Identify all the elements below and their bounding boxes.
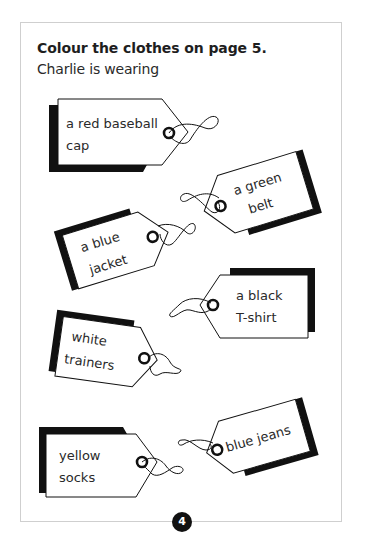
tag-label-line1: a red baseball	[66, 116, 158, 131]
tag-white-trainers: white trainers	[48, 310, 162, 390]
tag-label-line2: cap	[66, 138, 89, 153]
tag-blue-jacket: a blue jacket	[54, 200, 176, 291]
tag-label-line1: a black	[236, 288, 283, 303]
tag-label-line1: yellow	[59, 448, 101, 463]
page-number-badge: 4	[172, 512, 192, 532]
tag-black-tshirt: a black T-shirt	[170, 268, 315, 338]
tag-hole-icon	[211, 444, 223, 456]
tag-yellow-socks: yellow socks	[39, 427, 183, 497]
tag-label-line2: socks	[59, 470, 95, 485]
tag-green-belt: a green belt	[195, 150, 321, 246]
tag-label-line2: T-shirt	[235, 310, 277, 325]
tag-hole-icon	[139, 353, 150, 364]
tag-hole-icon	[146, 231, 158, 243]
clothes-tags-illustration: a red baseball cap a green belt a blue j…	[0, 0, 366, 548]
tag-hole-icon	[208, 300, 218, 310]
tag-hole-icon	[214, 200, 226, 212]
tag-blue-jeans: blue jeans	[199, 397, 318, 484]
tag-red-baseball-cap: a red baseball cap	[49, 99, 218, 172]
